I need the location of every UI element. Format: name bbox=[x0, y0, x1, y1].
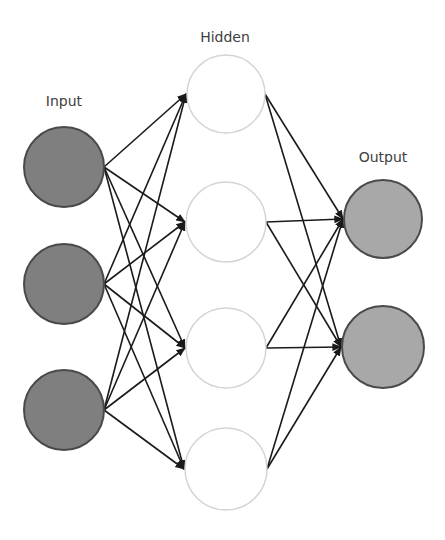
output-node-1 bbox=[344, 180, 422, 258]
input-layer-label: Input bbox=[46, 93, 83, 109]
edge-h3-o1 bbox=[266, 219, 343, 348]
neural-network-diagram: Input Hidden Output bbox=[0, 0, 445, 540]
hidden-node-2 bbox=[186, 182, 266, 262]
hidden-layer-label: Hidden bbox=[200, 29, 250, 45]
hidden-node-3 bbox=[186, 308, 266, 388]
edge-i1-h1 bbox=[104, 94, 186, 167]
nodes bbox=[24, 55, 424, 510]
edge-i2-h1 bbox=[104, 94, 186, 284]
edge-h1-o1 bbox=[265, 94, 343, 219]
edge-i3-h2 bbox=[104, 222, 185, 410]
input-node-3 bbox=[24, 370, 104, 450]
edge-i3-h3 bbox=[104, 348, 185, 410]
output-layer-label: Output bbox=[359, 149, 408, 165]
edge-i2-h4 bbox=[104, 284, 184, 469]
edge-h2-o1 bbox=[266, 219, 343, 222]
input-node-1 bbox=[24, 127, 104, 207]
input-node-2 bbox=[24, 244, 104, 324]
edge-i3-h1 bbox=[104, 94, 186, 410]
edge-h4-o2 bbox=[267, 347, 341, 469]
hidden-node-1 bbox=[187, 55, 265, 133]
edge-h4-o1 bbox=[267, 219, 343, 469]
connections bbox=[104, 94, 343, 469]
output-node-2 bbox=[342, 306, 424, 388]
hidden-node-4 bbox=[185, 428, 267, 510]
